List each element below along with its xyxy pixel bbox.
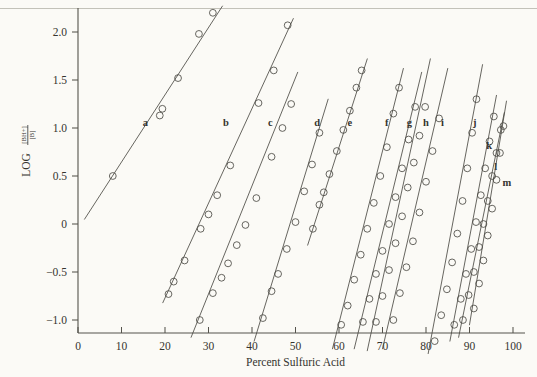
data-point <box>351 276 358 283</box>
data-point <box>268 153 275 160</box>
x-axis-tick-label: 30 <box>203 340 215 352</box>
data-point <box>255 100 262 107</box>
hammett-plot-svg: 01020304050607080901002.01.51.00.50−0.5−… <box>0 0 537 377</box>
data-point <box>214 192 221 199</box>
data-point <box>464 165 471 172</box>
data-series-a: a <box>85 6 223 219</box>
data-point <box>373 271 380 278</box>
y-axis-tick-label: 1.5 <box>53 74 68 86</box>
x-axis-tick-label: 20 <box>159 340 171 352</box>
data-point <box>412 103 419 110</box>
y-axis-tick-label: 1.0 <box>53 122 68 134</box>
chart-figure: 01020304050607080901002.01.51.00.50−0.5−… <box>0 0 537 377</box>
series-label-f: f <box>385 117 389 128</box>
data-point <box>468 246 475 253</box>
y-axis-tick-label: −0.5 <box>46 266 67 278</box>
data-point <box>454 230 461 237</box>
data-point <box>386 267 393 274</box>
x-axis-tick-label: 50 <box>290 340 302 352</box>
series-label-c: c <box>268 117 273 128</box>
data-point <box>233 242 240 249</box>
x-axis-tick-label: 10 <box>116 340 128 352</box>
x-axis-tick-label: 60 <box>333 340 345 352</box>
data-point <box>366 295 373 302</box>
data-point <box>156 112 163 119</box>
y-axis-tick-label: −1.0 <box>46 314 67 326</box>
data-point <box>463 271 470 278</box>
data-point <box>292 219 299 226</box>
data-point <box>383 144 390 151</box>
series-line-l <box>459 113 505 338</box>
series-label-g: g <box>407 117 413 128</box>
data-point <box>197 225 204 232</box>
data-point <box>253 195 260 202</box>
series-label-d: d <box>314 117 320 128</box>
data-point <box>431 338 438 345</box>
data-point <box>403 264 410 271</box>
series-label-b: b <box>223 117 229 128</box>
data-point <box>416 209 423 216</box>
data-point <box>377 173 384 180</box>
data-point <box>390 110 397 117</box>
data-point <box>490 113 497 120</box>
data-point <box>159 105 166 112</box>
data-point <box>404 184 411 191</box>
data-point <box>218 274 225 281</box>
data-point <box>443 286 450 293</box>
data-point <box>399 213 406 220</box>
data-point <box>165 291 172 298</box>
series-label-k: k <box>486 140 492 151</box>
data-point <box>459 198 466 205</box>
data-point <box>196 317 203 324</box>
data-point <box>489 205 496 212</box>
data-point <box>477 192 484 199</box>
data-point <box>227 162 234 169</box>
data-point <box>399 165 406 172</box>
data-point <box>379 247 386 254</box>
y-axis-title: LOG[BH+][B] <box>20 125 36 177</box>
x-axis-tick-label: 90 <box>464 340 476 352</box>
series-label-i: i <box>441 117 444 128</box>
data-point <box>410 238 417 245</box>
data-series-c: c <box>191 72 298 337</box>
series-label-h: h <box>423 117 429 128</box>
data-point <box>465 292 472 299</box>
data-point <box>242 222 249 229</box>
series-label-e: e <box>348 117 353 128</box>
series-line-a <box>85 6 223 219</box>
data-point <box>392 194 399 201</box>
y-axis-tick-label: 0 <box>61 218 67 230</box>
data-series-k: k <box>450 95 497 341</box>
series-label-a: a <box>143 117 149 128</box>
data-point <box>301 188 308 195</box>
x-axis-tick-label: 100 <box>504 340 522 352</box>
data-point <box>364 225 371 232</box>
data-point <box>451 321 458 328</box>
data-series-g: g <box>354 72 421 348</box>
data-point <box>423 178 430 185</box>
data-series-l: l <box>459 113 505 338</box>
data-point <box>279 125 286 132</box>
y-axis-title-numerator: [BH+] <box>20 126 28 143</box>
data-point <box>438 312 445 319</box>
x-axis-tick-label: 40 <box>246 340 258 352</box>
data-point <box>283 246 290 253</box>
data-point <box>416 132 423 139</box>
data-point <box>449 259 456 266</box>
data-point <box>209 290 216 297</box>
data-point <box>316 129 323 136</box>
data-point <box>470 305 477 312</box>
x-axis-tick-label: 0 <box>75 340 81 352</box>
x-axis-title: Percent Sulfuric Acid <box>246 356 345 368</box>
data-point <box>410 159 417 166</box>
series-label-j: j <box>472 117 477 128</box>
data-point <box>390 317 397 324</box>
data-point <box>379 293 386 300</box>
data-point <box>484 232 491 239</box>
y-axis-title-log: LOG <box>20 153 32 177</box>
x-axis-tick-label: 70 <box>377 340 389 352</box>
data-point <box>344 302 351 309</box>
data-series-e: e <box>308 59 368 245</box>
data-point <box>225 260 232 267</box>
data-point <box>405 136 412 143</box>
